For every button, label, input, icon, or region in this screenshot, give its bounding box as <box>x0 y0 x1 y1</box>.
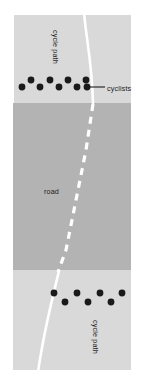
diagram-canvas: cyclists cycle path cycle path road <box>0 0 145 390</box>
label-cyclists: cyclists <box>107 84 132 93</box>
scene-svg: cyclists cycle path cycle path road <box>0 0 145 390</box>
cyclist-dot-top-3 <box>37 84 44 91</box>
cyclist-dot-top-9 <box>84 84 91 91</box>
cyclist-dot-bottom-5 <box>97 290 104 297</box>
cyclist-dot-bottom-6 <box>108 299 115 306</box>
cyclist-dot-bottom-7 <box>119 290 126 297</box>
cyclist-dot-top-5 <box>56 84 63 91</box>
label-cycle-path-bottom: cycle path <box>91 320 100 354</box>
label-road: road <box>44 187 59 196</box>
cyclist-dot-bottom-4 <box>85 299 92 306</box>
region-road <box>13 103 131 270</box>
cyclist-dot-top-4 <box>47 77 54 84</box>
cyclist-dot-top-6 <box>65 77 72 84</box>
cyclist-dot-top-7 <box>74 84 81 91</box>
label-cycle-path-top: cycle path <box>51 30 60 64</box>
cyclist-dot-bottom-1 <box>51 290 58 297</box>
cyclist-dot-bottom-2 <box>62 299 69 306</box>
cyclist-dot-top-8 <box>83 77 90 84</box>
region-cycle-path-bottom <box>13 270 131 370</box>
cyclist-dot-bottom-3 <box>74 290 81 297</box>
cyclist-dot-top-1 <box>19 84 26 91</box>
cyclist-dot-top-2 <box>28 77 35 84</box>
